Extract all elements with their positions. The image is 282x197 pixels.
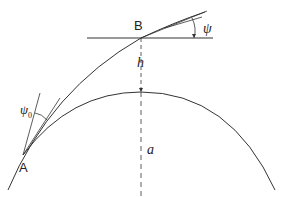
psi-arrowhead xyxy=(192,34,196,38)
psi0-subscript: 0 xyxy=(28,111,32,120)
tangent-line-b-1 xyxy=(141,11,207,38)
label-point-a: A xyxy=(19,161,28,174)
earth-surface-arc xyxy=(23,92,275,190)
label-angle-psi0: ψ0 xyxy=(20,103,32,120)
psi0-symbol: ψ xyxy=(20,102,28,117)
tangent-line-b-2 xyxy=(165,17,202,28)
psi0-angle-arc xyxy=(35,113,47,120)
label-point-b: B xyxy=(134,19,143,32)
height-arrowhead xyxy=(139,88,143,92)
label-angle-psi: ψ xyxy=(203,22,212,36)
label-radius: a xyxy=(147,143,154,157)
label-height: h xyxy=(137,56,144,70)
